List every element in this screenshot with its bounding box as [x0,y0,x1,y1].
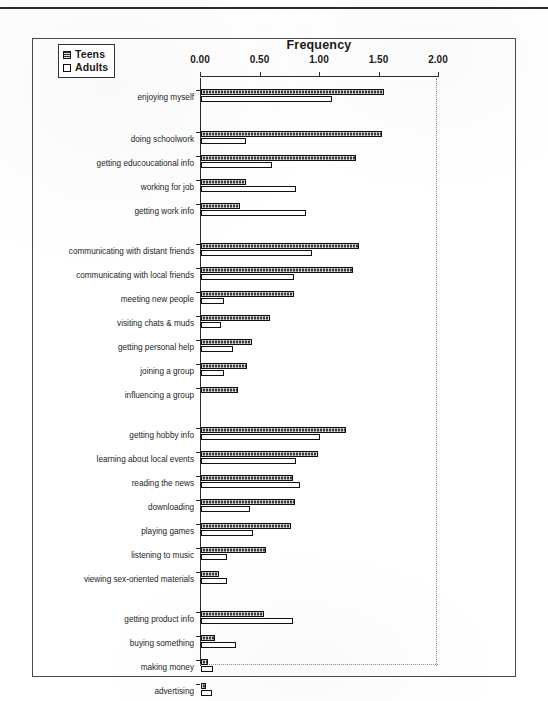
category-label: making money [141,663,194,672]
bar-teens [201,611,264,617]
plot-right-edge [436,78,438,666]
bar-teens [201,291,294,297]
bar-teens [201,659,208,665]
bar-teens [201,203,240,209]
legend-item-teens: Teens [63,48,108,61]
category-label: reading the news [132,479,194,488]
category-label: viewing sex-oriented materials [84,575,194,584]
category-label: joining a group [140,367,194,376]
y-axis-tick [196,204,200,205]
bar-adults [201,578,227,584]
bar-teens [201,547,266,553]
y-axis-tick [196,90,200,91]
bar-teens [201,315,270,321]
bar-teens [201,267,353,273]
bar-teens [201,683,206,689]
y-axis-tick [196,636,200,637]
bar-adults [201,690,212,696]
bar-teens [201,451,318,457]
bar-adults [201,434,320,440]
y-axis-tick [196,500,200,501]
bar-teens [201,571,219,577]
y-axis-tick [196,364,200,365]
y-axis-tick [196,524,200,525]
bar-teens [201,387,238,393]
legend-swatch-teens-icon [63,51,71,59]
legend-item-adults: Adults [63,61,108,74]
bar-teens [201,475,293,481]
category-label: communicating with distant friends [69,247,194,256]
category-label: advertising [154,687,194,696]
x-axis-tick-label: 1.50 [369,54,388,65]
bar-teens [201,131,382,137]
y-axis-tick [196,156,200,157]
bar-adults [201,186,296,192]
bar-teens [201,89,384,95]
plot-bottom-edge [200,664,438,666]
x-axis-tick [379,72,380,77]
bar-teens [201,635,215,641]
category-label: getting work info [134,207,194,216]
bar-adults [201,250,312,256]
bar-adults [201,162,272,168]
x-axis-tick [260,72,261,77]
bar-teens [201,243,359,249]
bar-teens [201,499,295,505]
y-axis-tick [196,660,200,661]
y-axis-tick [196,132,200,133]
bar-teens [201,339,252,345]
category-label: communicating with local friends [76,271,194,280]
y-axis-tick [196,316,200,317]
bar-adults [201,96,332,102]
category-label: doing schoolwork [131,135,194,144]
bar-adults [201,642,236,648]
bar-adults [201,482,300,488]
legend-label-teens: Teens [75,49,105,60]
category-label: getting personal help [118,343,194,352]
category-label: getting hobby info [129,431,194,440]
category-label: influencing a group [125,391,194,400]
bar-adults [201,210,306,216]
x-axis-tick-label: 0.50 [250,54,269,65]
y-axis-tick [196,572,200,573]
x-axis-tick [200,72,201,77]
bar-adults [201,298,224,304]
x-axis-tick-label: 2.00 [428,54,447,65]
bar-teens [201,179,246,185]
bar-teens [201,363,247,369]
category-label: listening to music [131,551,194,560]
bar-adults [201,618,293,624]
bar-adults [201,274,294,280]
category-label: learning about local events [97,455,194,464]
chart-title: Frequency [200,38,438,52]
bar-teens [201,155,356,161]
x-axis [200,76,438,77]
y-axis-tick [196,180,200,181]
bar-adults [201,346,233,352]
bar-teens [201,427,346,433]
bar-adults [201,370,224,376]
y-axis-tick [196,476,200,477]
category-label: downloading [148,503,194,512]
y-axis-tick [196,268,200,269]
y-axis-tick [196,340,200,341]
y-axis-tick [196,684,200,685]
category-label: playing games [141,527,194,536]
bar-teens [201,523,291,529]
category-label: buying something [130,639,194,648]
x-axis-tick [319,72,320,77]
y-axis-tick [196,612,200,613]
category-label: working for job [141,183,194,192]
plot-area [200,78,438,666]
bar-adults [201,506,250,512]
x-axis-tick [438,72,439,77]
bar-adults [201,458,296,464]
category-label: getting product info [124,615,194,624]
page-top-rule [0,7,548,9]
bar-adults [201,666,213,672]
y-axis-tick [196,388,200,389]
category-label: meeting new people [121,295,194,304]
y-axis-tick [196,244,200,245]
y-axis-tick [196,452,200,453]
category-label: enjoying myself [138,93,194,102]
